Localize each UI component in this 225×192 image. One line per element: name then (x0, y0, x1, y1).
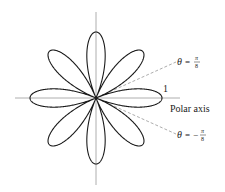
polar-rose-figure: 1 Polar axis θ = π 8 θ = − π 8 (0, 0, 225, 192)
pi-numerator: π (195, 55, 199, 61)
eight-denominator: 8 (201, 136, 204, 142)
pi-numerator: π (201, 128, 205, 134)
radius-one-label: 1 (163, 83, 168, 94)
eight-denominator: 8 (195, 63, 198, 69)
theta-lower-label: θ = − π 8 (177, 128, 206, 142)
theta-symbol: θ (177, 129, 182, 140)
polar-axis-label: Polar axis (170, 103, 210, 114)
equals-sign: = (185, 57, 190, 67)
minus-sign: − (193, 130, 198, 140)
theta-upper-label: θ = π 8 (177, 55, 200, 69)
equals-sign: = (185, 130, 190, 140)
theta-symbol: θ (177, 56, 182, 67)
